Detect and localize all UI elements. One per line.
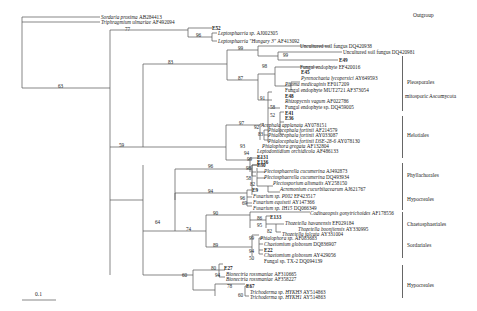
taxon-label: E133 (270, 214, 281, 220)
group-bracket (402, 116, 403, 158)
bootstrap-value: 50 (249, 255, 254, 261)
bootstrap-value: 92 (254, 124, 259, 130)
bootstrap-value: 99 (249, 235, 254, 241)
bootstrap-value: 94 (249, 248, 254, 254)
taxon-label: Codinaeopsis gonytrichoides AF178556 (310, 210, 394, 216)
group-bracket (402, 265, 403, 298)
group-label-pleosporales: Pleosporales (407, 79, 434, 85)
taxon-label: Triphragmium ulmariae AF492094 (101, 19, 175, 25)
bootstrap-value: 98 (246, 165, 251, 171)
bootstrap-value: 69 (242, 200, 247, 206)
bootstrap-value: 97 (239, 120, 244, 126)
taxon-label: Fungal sp. TX-2 DQ094139 (264, 258, 322, 264)
group-label-helotiales: Helotiales (407, 132, 429, 138)
bootstrap-value: 98 (262, 63, 267, 69)
bootstrap-value: 82 (267, 228, 272, 234)
bootstrap-value: 95 (257, 222, 262, 228)
taxon-label: Leptodontidium orchidicola AF486133 (257, 148, 338, 154)
bootstrap-value: 99 (238, 45, 243, 51)
bootstrap-value: 78 (227, 283, 232, 289)
bootstrap-value: 94 (215, 272, 220, 278)
group-label-hypocreales-2: Hypocreales (407, 282, 434, 288)
bootstrap-value: 86 (257, 215, 262, 221)
bootstrap-value: 93 (240, 143, 245, 149)
group-label-phyllachorales: Phyllachorales (407, 172, 439, 178)
bootstrap-value: 77 (125, 26, 130, 32)
group-bracket (402, 188, 403, 210)
taxon-label: Leptosphaeria sp. AJ002305 (218, 30, 278, 36)
group-label-sordariales: Sordariales (407, 242, 431, 248)
taxon-label: E49 (339, 57, 348, 63)
group-bracket (402, 212, 403, 234)
taxon-label: Uncultured soil fungus DQ420981 (343, 49, 415, 55)
bootstrap-value: 80 (211, 265, 216, 271)
bootstrap-value: 91 (260, 95, 265, 101)
taxon-label: Acremonium cucurbitacearum AJ621767 (280, 186, 366, 192)
group-label-hypocreales: Hypocreales (407, 196, 434, 202)
bootstrap-value: 96 (208, 163, 213, 169)
bootstrap-value: 64 (155, 219, 160, 225)
group-label-mitosporic: mitosporic Ascomycota (405, 93, 456, 99)
bootstrap-value: 82 (250, 181, 255, 187)
taxon-label: Fusarium sp. IH15 DQ066349 (253, 205, 317, 211)
taxon-label: Bionectria rossmaniae AF358227 (226, 276, 296, 282)
bootstrap-value: 83 (258, 131, 263, 137)
bootstrap-value: 60 (238, 292, 243, 298)
bootstrap-value: 74 (186, 226, 191, 232)
bootstrap-value: 83 (168, 59, 173, 65)
bootstrap-value: 63 (58, 83, 63, 89)
scale-bar-label: 0.1 (35, 291, 42, 297)
bootstrap-value: 52 (270, 112, 275, 118)
bootstrap-value: 58 (270, 104, 275, 110)
bootstrap-value: 99 (283, 52, 288, 58)
taxon-label: Fungal endophyte MUT2721 AF373054 (285, 87, 369, 93)
bootstrap-value: 94 (208, 188, 213, 194)
taxon-label: Trichoderma sp. HYKH1 AY514863 (250, 294, 326, 300)
bootstrap-value: 99 (247, 156, 252, 162)
group-label-outgroup: Outgroup (413, 12, 434, 18)
bootstrap-value: 89 (213, 242, 218, 248)
bootstrap-value: 90 (213, 210, 218, 216)
bootstrap-value: 87 (238, 75, 243, 81)
taxon-label: E36 (285, 115, 294, 121)
bootstrap-value: 96 (196, 32, 201, 38)
group-bracket (402, 234, 403, 258)
taxon-label: Fungal endophyte sp. DQ459005 (285, 104, 354, 110)
bootstrap-value: 59 (119, 142, 124, 148)
bootstrap-value: 60 (182, 272, 187, 278)
group-bracket (402, 56, 403, 111)
taxon-label: Chaetomium globosum DQ836907 (264, 241, 336, 247)
taxon-label: Leptosphaeria "Hungary 3" AF413092 (218, 38, 299, 44)
group-label-chaetosphaeriales: Chaetosphaeriales (407, 221, 446, 227)
